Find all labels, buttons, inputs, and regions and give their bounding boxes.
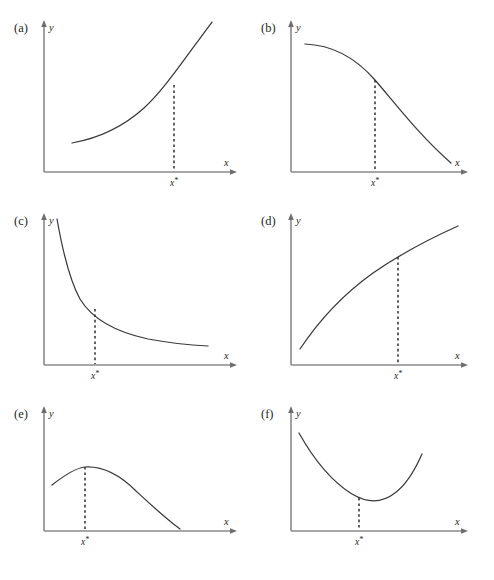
panel-b-xstar-label: x* [370, 176, 379, 188]
panel-b: (b) y x x* [247, 0, 494, 193]
panel-a-x-axis-arrow [230, 169, 237, 175]
panel-e-y-axis-arrow [41, 406, 47, 413]
panel-f: (f) y x x* [247, 386, 494, 579]
panel-d: (d) y x x* [247, 193, 494, 386]
panel-b-x-axis-label: x [454, 157, 460, 168]
panel-b-y-axis-label: y [295, 22, 301, 33]
panel-b-y-axis-arrow [288, 20, 294, 27]
panel-e-y-axis-label: y [48, 408, 54, 419]
panel-c-letter: (c) [14, 214, 28, 228]
panel-f-xstar-label: x* [354, 535, 363, 547]
panel-a-x-axis-label: x [223, 157, 229, 168]
panel-c-xstar-label: x* [90, 369, 99, 381]
panel-d-y-axis-label: y [295, 215, 301, 226]
panel-a-y-axis-arrow [41, 20, 47, 27]
panel-c-y-axis-label: y [48, 215, 54, 226]
panel-d-x-axis-label: x [454, 350, 460, 361]
panel-c-curve [57, 219, 208, 346]
panel-e-x-axis-label: x [223, 516, 229, 527]
panel-d-y-axis-arrow [288, 213, 294, 220]
panel-d-x-axis-arrow [461, 362, 468, 368]
panel-f-y-axis-label: y [295, 408, 301, 419]
panel-e-letter: (e) [14, 407, 28, 421]
panel-f-x-axis-arrow [461, 528, 468, 534]
panel-c-y-axis-arrow [41, 213, 47, 220]
panel-c: (c) y x x* [0, 193, 247, 386]
panel-e: (e) y x x* [0, 386, 247, 579]
panel-f-letter: (f) [261, 407, 274, 421]
panel-f-x-axis-label: x [454, 516, 460, 527]
panel-b-letter: (b) [261, 21, 276, 35]
panel-a-xstar-label: x* [169, 176, 178, 188]
panel-e-x-axis-arrow [230, 528, 237, 534]
panel-e-curve [52, 467, 180, 529]
panel-a-y-axis-label: y [48, 22, 54, 33]
panel-f-curve [299, 433, 422, 501]
panel-f-y-axis-arrow [288, 406, 294, 413]
figure-root: (a) y x x* (b) y x x* [0, 0, 494, 580]
panel-a-letter: (a) [14, 21, 28, 35]
panel-a: (a) y x x* [0, 0, 247, 193]
panel-e-xstar-label: x* [80, 535, 89, 547]
panel-b-x-axis-arrow [461, 169, 468, 175]
panel-d-curve [300, 226, 458, 349]
panel-c-x-axis-arrow [230, 362, 237, 368]
panel-b-curve [305, 44, 451, 163]
panel-d-xstar-label: x* [393, 369, 402, 381]
panel-c-x-axis-label: x [223, 350, 229, 361]
panel-a-curve [72, 22, 212, 143]
panel-d-letter: (d) [261, 214, 276, 228]
